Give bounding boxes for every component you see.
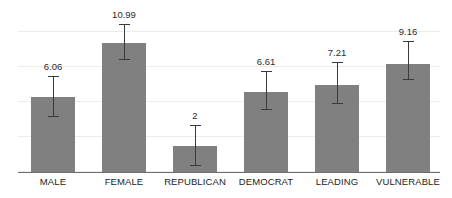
category-label-wrap-republican: REPUBLICAN	[173, 0, 217, 198]
category-label-wrap-vulnerable: VULNERABLE	[386, 0, 430, 198]
category-label-wrap-male: MALE	[31, 0, 75, 198]
category-label-wrap-leading: LEADING	[315, 0, 359, 198]
category-label-male: MALE	[40, 177, 66, 187]
bar-chart: 6.06 10.99 2 6.61	[0, 0, 452, 198]
category-label-wrap-female: FEMALE	[102, 0, 146, 198]
category-label-leading: LEADING	[316, 177, 358, 187]
category-label-wrap-democrat: DEMOCRAT	[244, 0, 288, 198]
category-label-democrat: DEMOCRAT	[239, 177, 293, 187]
category-label-female: FEMALE	[105, 177, 144, 187]
category-label-vulnerable: VULNERABLE	[376, 177, 440, 187]
category-label-republican: REPUBLICAN	[164, 177, 226, 187]
